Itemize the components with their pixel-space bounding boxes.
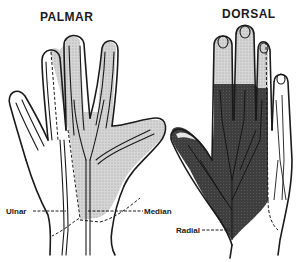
palmar-title: PALMAR <box>40 10 93 24</box>
dorsal-ulnar-branches <box>274 95 286 200</box>
dorsal-boundary-dashed <box>268 200 278 230</box>
palmar-palm-outline <box>26 160 51 255</box>
hand-innervation-diagram: PALMAR <box>0 0 304 262</box>
palmar-hand: PALMAR <box>6 10 172 255</box>
median-label: Median <box>144 207 172 216</box>
ulnar-nerve <box>60 140 64 255</box>
little-nail <box>277 74 285 84</box>
radial-nerve-area <box>171 84 268 240</box>
dorsal-hand: DORSAL <box>171 7 292 258</box>
palmar-little-finger <box>9 91 48 160</box>
dorsal-title: DORSAL <box>222 7 276 21</box>
ulnar-label: Ulnar <box>6 207 26 216</box>
radial-label: Radial <box>176 226 200 235</box>
